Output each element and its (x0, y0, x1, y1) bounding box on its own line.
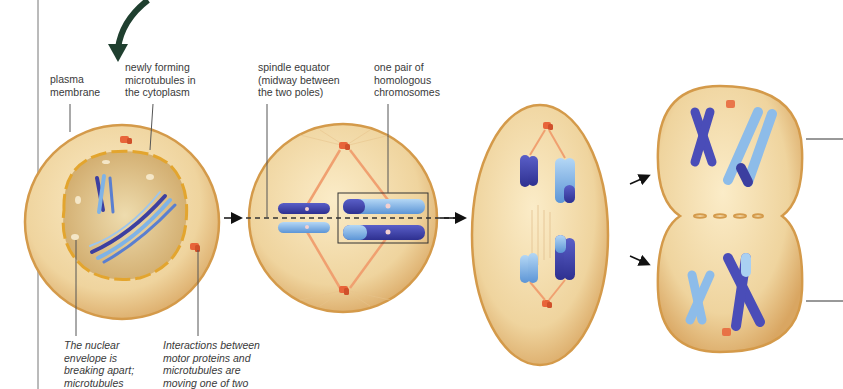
motor-proteins-note: Interactions between motor proteins and … (163, 339, 260, 389)
arrow-3-down (630, 256, 648, 264)
mitosis-diagram: plasma membrane newly forming microtubul… (0, 0, 843, 389)
anaphase-cell (472, 105, 608, 365)
spindle-equator-label: spindle equator (midway between the two … (258, 61, 340, 99)
green-curved-arrow-icon (108, 0, 148, 62)
nuclear-envelope-note: The nuclear envelope is breaking apart; … (64, 339, 134, 389)
newly-forming-microtubules-label: newly forming microtubules in the cytopl… (125, 61, 196, 99)
homologous-pair-label: one pair of homologous chromosomes (374, 61, 440, 99)
telophase-cell (658, 86, 802, 352)
arrow-3-up (630, 176, 648, 184)
diagram-graphics (0, 0, 843, 389)
prometaphase-cell (25, 125, 219, 319)
plasma-membrane-label: plasma membrane (50, 73, 100, 98)
